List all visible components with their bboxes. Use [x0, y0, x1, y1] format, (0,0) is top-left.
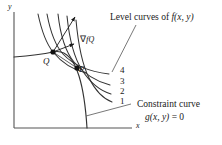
y-axis-label: y: [8, 3, 12, 11]
gradient-arrows-group: [53, 17, 77, 68]
constraint-function: g(x, y): [145, 112, 169, 122]
segment-Q-to-P: [53, 52, 77, 68]
point-label-P: P: [79, 65, 85, 74]
constraint-annotation-line1: Constraint curve: [137, 100, 200, 110]
level-curve-4: [47, 14, 109, 74]
level-curves-annotation: Level curves of f(x, y): [110, 13, 194, 23]
point-label-Q: Q: [43, 57, 50, 66]
level-curve-1: [76, 20, 112, 102]
level-curve-value-1: 1: [120, 97, 125, 106]
level-curve-value-2: 2: [120, 87, 125, 96]
axes-group: [14, 12, 132, 128]
constraint-curve-group: [14, 52, 87, 128]
level-curves-function: f(x, y): [171, 12, 193, 22]
lagrange-multiplier-figure: y x Q P ∇fQ 4 3 2 1 Level curves of f(x,…: [0, 0, 222, 145]
constraint-curve: [14, 52, 87, 128]
constraint-annotation-line2: g(x, y) = 0: [145, 113, 184, 123]
x-axis-label: x: [136, 122, 140, 130]
gradient-arrow-long: [53, 17, 75, 52]
gradient-subscript: Q: [89, 35, 95, 44]
constraint-equals-zero: = 0: [169, 112, 184, 122]
point-marker-Q: [50, 49, 55, 54]
level-curves-annotation-text: Level curves of: [110, 12, 171, 22]
gradient-arrow-short: [53, 44, 74, 52]
gradient-label: ∇fQ: [80, 35, 94, 44]
level-curve-3: [58, 14, 110, 85]
level-curve-value-3: 3: [120, 77, 125, 86]
level-curve-2: [67, 16, 111, 94]
level-curve-value-4: 4: [120, 66, 125, 75]
